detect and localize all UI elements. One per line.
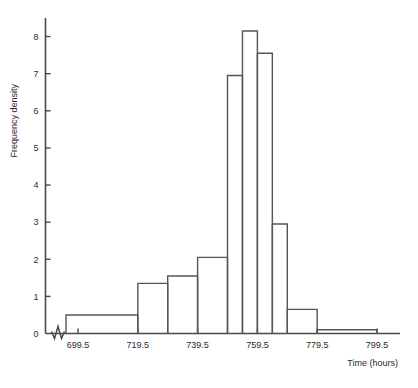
histogram-bar [228, 76, 243, 334]
x-tick-label-779.5: 779.5 [306, 340, 329, 350]
x-tick-label-739.5: 739.5 [186, 340, 209, 350]
x-axis-title: Time (hours) [347, 358, 398, 368]
histogram-bar [138, 283, 168, 333]
histogram-chart: 012345678699.5719.5739.5759.5779.5799.5T… [0, 0, 418, 388]
y-tick-label-0: 0 [33, 329, 38, 339]
y-tick-label-7: 7 [33, 69, 38, 79]
y-tick-label-5: 5 [33, 143, 38, 153]
y-tick-label-3: 3 [33, 217, 38, 227]
x-tick-label-799.5: 799.5 [366, 340, 389, 350]
y-tick-label-1: 1 [33, 292, 38, 302]
x-tick-label-719.5: 719.5 [127, 340, 150, 350]
histogram-bar [66, 315, 138, 334]
y-tick-label-2: 2 [33, 255, 38, 265]
x-axis-break-icon [52, 327, 65, 339]
y-tick-label-8: 8 [33, 32, 38, 42]
histogram-bar [242, 31, 257, 334]
histogram-bar [168, 276, 198, 334]
histogram-bar [198, 257, 228, 333]
y-axis-title: Frequency density [9, 83, 19, 157]
chart-canvas: 012345678699.5719.5739.5759.5779.5799.5T… [0, 0, 418, 388]
histogram-bar [257, 53, 272, 333]
histogram-bar [287, 309, 317, 333]
y-tick-label-4: 4 [33, 180, 38, 190]
y-tick-label-6: 6 [33, 106, 38, 116]
x-tick-label-699.5: 699.5 [67, 340, 90, 350]
x-tick-label-759.5: 759.5 [246, 340, 269, 350]
histogram-bar [272, 224, 287, 333]
